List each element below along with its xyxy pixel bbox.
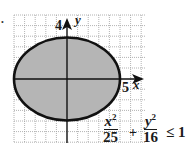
x-denominator: 25 — [103, 130, 118, 145]
y-tick-label: 4 — [55, 18, 62, 34]
y-axis-label: y — [75, 12, 81, 28]
x-tick-label: 5 — [122, 80, 129, 96]
ellipse-graph: • — [0, 0, 189, 151]
x-axis-label: x — [133, 77, 140, 93]
bullet: • — [1, 18, 4, 27]
x-exp: 2 — [112, 112, 117, 122]
relation: ≤ 1 — [166, 124, 185, 141]
fraction-x: x2 25 — [103, 114, 118, 145]
x-var: x — [105, 113, 113, 129]
y-denominator: 16 — [143, 130, 158, 145]
plus-sign: + — [129, 125, 137, 141]
fraction-y: y2 16 — [143, 114, 158, 145]
y-exp: 2 — [152, 112, 157, 122]
y-var: y — [145, 113, 152, 129]
